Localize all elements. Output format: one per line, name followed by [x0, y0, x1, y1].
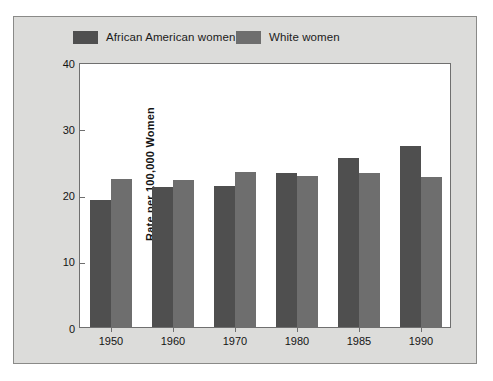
x-axis-tick-label: 1950	[81, 335, 141, 347]
y-axis-tick-label: 0	[69, 324, 80, 335]
x-axis-tick-mark	[421, 327, 422, 332]
legend-label-white-women: White women	[269, 31, 340, 43]
x-axis-tick-label: 1970	[205, 335, 265, 347]
bar-1990-series-0	[400, 146, 421, 327]
chart-legend: African American women White women	[14, 26, 476, 48]
x-axis-tick-label: 1985	[329, 335, 389, 347]
y-axis-tick-label: 40	[63, 59, 80, 70]
x-axis-tick-mark	[235, 327, 236, 332]
legend-entry-african-american-women: African American women	[73, 26, 235, 48]
x-axis-tick-mark	[359, 327, 360, 332]
x-axis-tick-mark	[173, 327, 174, 332]
bar-1960-series-0	[152, 187, 173, 327]
bar-1960-series-1	[173, 180, 194, 327]
bar-group	[338, 64, 380, 327]
legend-entry-white-women: White women	[236, 26, 340, 48]
bars-layer	[80, 64, 450, 327]
bar-1980-series-1	[297, 176, 318, 327]
x-axis-tick-label: 1990	[391, 335, 451, 347]
y-axis-tick-label: 30	[63, 125, 80, 136]
bar-group	[214, 64, 256, 327]
bar-1970-series-1	[235, 172, 256, 327]
bar-group	[152, 64, 194, 327]
chart-figure-panel: African American women White women Rate …	[13, 16, 477, 364]
bar-1985-series-1	[359, 173, 380, 327]
y-axis-tick-label: 20	[63, 191, 80, 202]
bar-1950-series-0	[90, 200, 111, 327]
legend-swatch-african-american-women	[73, 31, 98, 44]
bar-1990-series-1	[421, 177, 442, 327]
bar-group	[276, 64, 318, 327]
x-axis-tick-mark	[297, 327, 298, 332]
x-axis-tick-mark	[111, 327, 112, 332]
bar-1970-series-0	[214, 186, 235, 327]
bar-group	[400, 64, 442, 327]
plot-area: Rate per 100,000 Women 010203040 1950196…	[79, 63, 451, 328]
bar-1985-series-0	[338, 158, 359, 327]
bar-1980-series-0	[276, 173, 297, 327]
legend-label-african-american-women: African American women	[106, 31, 235, 43]
bar-1950-series-1	[111, 179, 132, 327]
legend-swatch-white-women	[236, 31, 261, 44]
bar-group	[90, 64, 132, 327]
x-axis-tick-label: 1960	[143, 335, 203, 347]
y-axis-tick-label: 10	[63, 257, 80, 268]
x-axis-tick-label: 1980	[267, 335, 327, 347]
